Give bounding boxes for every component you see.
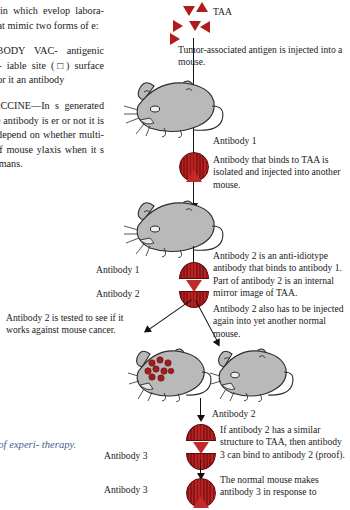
mouse-illustration-tumor <box>128 344 214 402</box>
antibody-1-shape <box>179 152 209 182</box>
antibody-2-pair-label: Antibody 2 <box>96 288 139 300</box>
arrow-to-tumor-mouse <box>145 299 192 332</box>
step-4-text: Antibody 2 also has to be injected again… <box>213 303 347 340</box>
taa-triangle-icon <box>200 21 210 33</box>
arrow-mouse-normal-to-antibody-2 <box>200 398 201 416</box>
taa-label: TAA <box>213 6 232 18</box>
antibody-1-pair-label: Antibody 1 <box>96 264 139 276</box>
step-2-text: Antibody that binds to TAA is isolated a… <box>213 154 347 191</box>
arrow-mouse-1-to-antibody-1 <box>193 128 194 154</box>
body-text-column: way in which evelop labora- ns that mimi… <box>0 4 104 183</box>
figure-caption: le of experi- therapy. <box>0 437 118 452</box>
antibody-3-lower-label: Antibody 3 <box>104 484 147 496</box>
taa-triangle-icon <box>196 2 208 12</box>
paragraph-1: way in which evelop labora- ns that mimi… <box>0 4 104 33</box>
antibody-3-lower-shape <box>186 478 216 508</box>
step-6-text: The normal mouse makes antibody 3 in res… <box>220 474 347 499</box>
step-3-text: Antibody 2 is an anti-idiotype antibody … <box>213 250 347 300</box>
textbook-page: way in which evelop labora- ns that mimi… <box>0 0 350 510</box>
antibody-3-upper-label: Antibody 3 <box>104 450 147 462</box>
paragraph-3: VACCINE—In s generated by he antibody is… <box>0 99 104 172</box>
taa-triangle-icon <box>173 20 183 32</box>
antibody-2-lower-label: Antibody 2 <box>212 408 255 420</box>
antibody-1-label: Antibody 1 <box>213 135 256 147</box>
paragraph-2: TIBODY VAC- antigenic deter- iable site … <box>0 44 104 88</box>
taa-triangle-icon <box>183 6 195 16</box>
mouse-illustration-2 <box>124 196 229 258</box>
mouse-illustration-normal <box>210 344 296 402</box>
step-5-text: If antibody 2 has a similar structure to… <box>220 424 347 461</box>
arrow-to-antibody-3 <box>200 460 201 474</box>
step-1-text: Tumor-associated antigen is injected int… <box>178 44 346 69</box>
antibody-2-test-text: Antibody 2 is tested to see if it works … <box>6 312 128 337</box>
mouse-illustration-1 <box>124 76 229 138</box>
